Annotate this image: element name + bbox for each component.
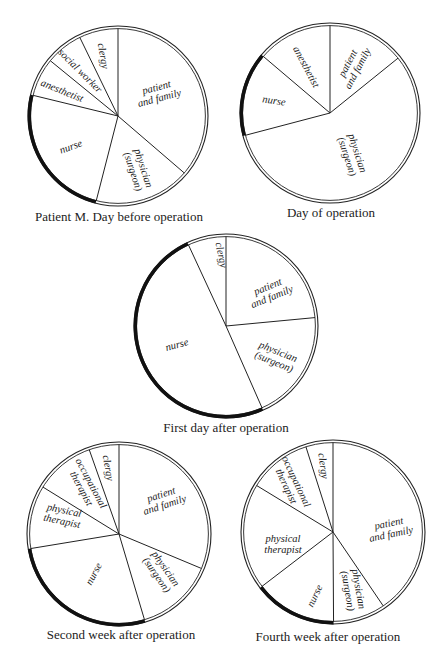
slice-label-physical-therapist: physicaltherapist [264,533,302,555]
caption-day-before: Patient M. Day before operation [35,209,203,225]
figure-stage: patientand familyphysician(surgeon)nurse… [0,0,447,656]
caption-fourth-week-after: Fourth week after operation [256,629,401,645]
caption-second-week-after: Second week after operation [47,627,195,643]
pie-chart-4: patientand familyphysician(surgeon)nurse… [27,442,211,626]
pie-chart-5: patientand familyphysician(surgeon)nurse… [241,440,425,624]
slice-divider [333,532,334,621]
pie-chart-3: patientand familyphysician(surgeon)nurse… [134,234,318,418]
pie-charts: patientand familyphysician(surgeon)nurse… [0,0,447,656]
caption-first-day-after: First day after operation [163,420,288,436]
pie-chart-2: patientand familyphysician(surgeon)nurse… [240,23,420,203]
pie-chart-1: patientand familyphysician(surgeon)nurse… [28,26,208,206]
caption-day-of: Day of operation [287,205,375,221]
